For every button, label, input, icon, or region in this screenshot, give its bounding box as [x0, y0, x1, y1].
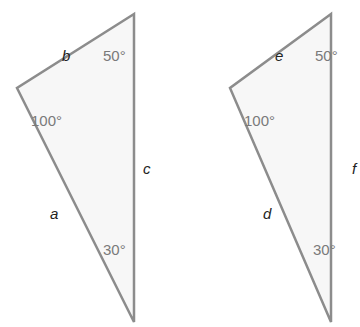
side-label-f: f	[352, 160, 358, 177]
angle-label-bottom-left-triangle: 30°	[103, 241, 126, 258]
angle-label-top-left-triangle: 50°	[103, 47, 126, 64]
side-label-e: e	[275, 47, 283, 64]
side-label-c: c	[143, 160, 151, 177]
angle-label-top-right-triangle: 50°	[315, 47, 338, 64]
side-label-b: b	[62, 47, 70, 64]
angle-label-left-left-triangle: 100°	[31, 112, 62, 129]
side-label-a: a	[50, 205, 58, 222]
triangles-diagram: b a c 50° 100° 30° e d f 50° 100° 30°	[0, 0, 360, 327]
triangle-left: b a c 50° 100° 30°	[17, 14, 151, 322]
triangle-right: e d f 50° 100° 30°	[230, 14, 358, 322]
angle-label-bottom-right-triangle: 30°	[313, 241, 336, 258]
side-label-d: d	[263, 205, 272, 222]
angle-label-left-right-triangle: 100°	[244, 112, 275, 129]
